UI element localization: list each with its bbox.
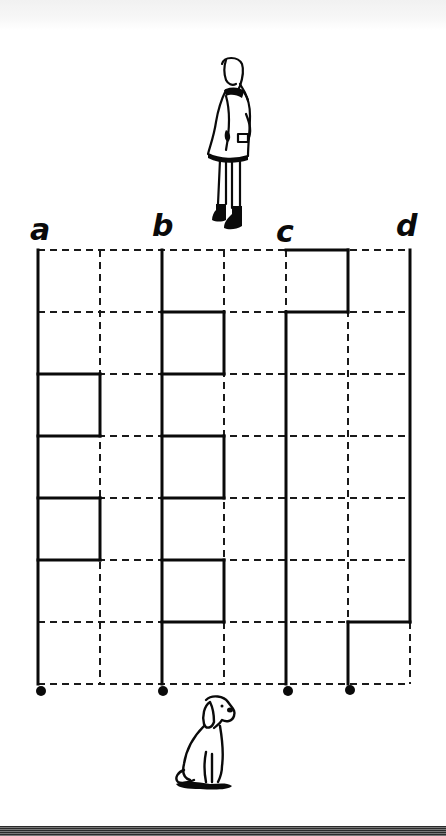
solid-paths xyxy=(38,250,410,684)
end-dot-2 xyxy=(158,686,168,696)
end-dot-1 xyxy=(36,686,46,696)
end-dot-4 xyxy=(345,685,355,695)
end-dot-3 xyxy=(283,686,293,696)
scan-bottom-band xyxy=(0,826,446,836)
dog-figure xyxy=(170,692,240,790)
